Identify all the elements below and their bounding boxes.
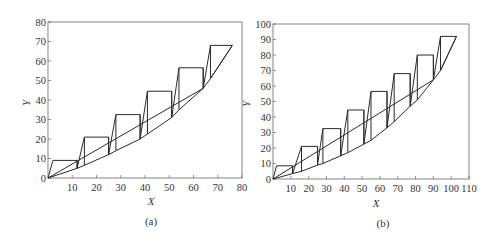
caption-a: (a) — [145, 215, 158, 228]
y-tick-label: 50 — [261, 96, 272, 107]
closing-line — [210, 45, 232, 78]
x-tick-label: 80 — [237, 182, 248, 193]
equilibrium-curve — [48, 45, 232, 178]
equilibrium-curve — [273, 36, 457, 179]
figure: 01020304050607080 1020304050607080 Y X (… — [0, 0, 502, 244]
x-axis-label-a: X — [147, 195, 156, 207]
chart-panel-b: 0102030405060708090100 10203040506070809… — [240, 19, 477, 231]
y-axis-a: 01020304050607080 — [36, 17, 52, 184]
y-tick-label: 40 — [261, 112, 272, 123]
x-tick-label: 40 — [339, 183, 350, 194]
x-tick-label: 10 — [286, 183, 297, 194]
x-tick-label: 70 — [392, 183, 403, 194]
y-tick-label: 30 — [36, 114, 47, 125]
x-tick-label: 40 — [140, 182, 151, 193]
x-axis-label-b: X — [372, 197, 381, 209]
y-tick-label: 20 — [261, 143, 272, 154]
stages — [48, 45, 232, 178]
operating-line — [273, 80, 433, 179]
y-tick-label: 90 — [261, 34, 272, 45]
x-tick-label: 60 — [188, 182, 199, 193]
x-tick-label: 50 — [164, 182, 175, 193]
y-tick-label: 60 — [36, 56, 47, 67]
caption-b: (b) — [377, 217, 390, 230]
closing-line — [440, 36, 456, 70]
y-tick-label: 60 — [261, 81, 272, 92]
y-tick-label: 70 — [36, 36, 47, 47]
stages — [273, 36, 457, 179]
x-tick-label: 70 — [213, 182, 224, 193]
x-tick-label: 60 — [375, 183, 386, 194]
x-tick-label: 20 — [91, 182, 102, 193]
y-tick-label: 80 — [36, 17, 47, 28]
operating-line — [48, 88, 203, 178]
x-tick-label: 30 — [116, 182, 127, 193]
y-tick-label: 30 — [261, 127, 272, 138]
y-tick-label: 10 — [261, 158, 272, 169]
y-tick-label: 50 — [36, 75, 47, 86]
plot-lines-b — [273, 36, 457, 179]
x-tick-label: 100 — [443, 183, 459, 194]
y-tick-label: 10 — [36, 153, 47, 164]
x-tick-label: 10 — [67, 182, 78, 193]
x-tick-label: 50 — [357, 183, 368, 194]
y-axis-label-a: Y — [20, 98, 32, 106]
x-tick-label: 20 — [303, 183, 314, 194]
x-tick-label: 30 — [321, 183, 332, 194]
x-tick-label: 90 — [428, 183, 439, 194]
y-tick-label: 100 — [255, 19, 271, 30]
y-tick-label: 70 — [261, 65, 272, 76]
y-tick-label: 80 — [261, 50, 272, 61]
x-tick-label: 80 — [410, 183, 421, 194]
x-tick-label: 110 — [461, 183, 476, 194]
y-tick-label: 20 — [36, 134, 47, 145]
y-tick-label: 0 — [41, 173, 46, 184]
plot-lines-a — [48, 45, 232, 178]
chart-panel-a: 01020304050607080 1020304050607080 Y X (… — [20, 17, 247, 229]
y-tick-label: 0 — [266, 174, 271, 185]
y-tick-label: 40 — [36, 95, 47, 106]
